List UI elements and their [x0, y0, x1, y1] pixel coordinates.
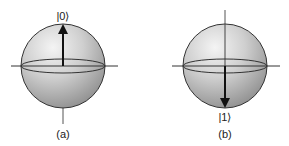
- bloch-sphere-a: |0⟩ (a): [11, 10, 118, 140]
- bloch-sphere-b: |1⟩ (b): [172, 10, 280, 140]
- state-label-1: |1⟩: [219, 111, 232, 123]
- caption-b: (b): [218, 128, 231, 140]
- state-label-0: |0⟩: [57, 10, 70, 22]
- caption-a: (a): [56, 128, 69, 140]
- bloch-spheres-figure: |0⟩ (a) |1⟩ (b): [0, 0, 289, 146]
